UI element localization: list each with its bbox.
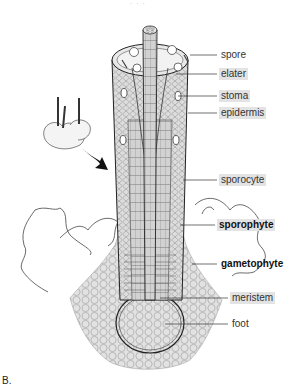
label-sporocyte: sporocyte — [219, 174, 266, 186]
label-elater: elater — [219, 68, 248, 80]
top-cutoff-text: · · · — [130, 0, 146, 7]
label-gametophyte: gametophyte — [219, 258, 285, 270]
foot — [116, 293, 184, 353]
hornwort-diagram — [0, 0, 298, 387]
small-hornwort-plants — [44, 120, 91, 149]
columella — [143, 30, 157, 300]
label-meristem: meristem — [230, 292, 275, 304]
label-stoma: stoma — [219, 90, 250, 102]
label-foot: foot — [230, 318, 251, 330]
arrow-icon — [82, 148, 108, 170]
label-epidermis: epidermis — [219, 107, 266, 119]
label-spore: spore — [219, 49, 248, 61]
label-sporophyte: sporophyte — [217, 219, 275, 231]
panel-letter: B. — [2, 375, 11, 386]
